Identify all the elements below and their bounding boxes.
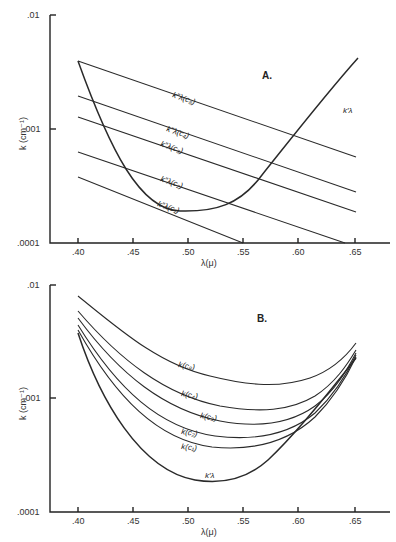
y-tick-label: .01 bbox=[27, 10, 40, 20]
x-tick-label: .40 bbox=[72, 247, 85, 257]
x-tick-label: .55 bbox=[237, 516, 250, 526]
y-tick-label: .01 bbox=[27, 280, 40, 290]
x-tick-label: .55 bbox=[237, 247, 250, 257]
x-tick-label: .65 bbox=[349, 247, 362, 257]
x-tick-label: .60 bbox=[292, 516, 305, 526]
x-tick-label: .60 bbox=[292, 247, 305, 257]
panel-a: .01 .001 .0001 k (cm⁻¹) .40 .45 .50 .55 … bbox=[17, 10, 390, 268]
curve-c2 bbox=[78, 152, 345, 243]
x-tick-label: .40 bbox=[72, 516, 85, 526]
label-c2: k(c₂) bbox=[181, 427, 199, 438]
x-tick-label: .50 bbox=[182, 247, 195, 257]
label-c4: k″λ(c₄) bbox=[165, 124, 190, 140]
panel-b: .01 .001 .0001 k (cm⁻¹) .40 .45 .50 .55 … bbox=[17, 280, 390, 537]
figure: .01 .001 .0001 k (cm⁻¹) .40 .45 .50 .55 … bbox=[0, 0, 396, 542]
curve-c4 bbox=[78, 311, 356, 410]
x-axis-label: λ(μ) bbox=[201, 258, 217, 268]
label-c2: k″λ(c₂) bbox=[159, 174, 184, 190]
curve-kprime bbox=[78, 333, 356, 482]
x-tick-label: .65 bbox=[349, 516, 362, 526]
panel-b-axes bbox=[50, 285, 390, 512]
curve-c1 bbox=[78, 330, 356, 448]
label-c8: k(c₈) bbox=[178, 360, 196, 372]
label-c4: k(c₄) bbox=[181, 389, 199, 401]
panel-b-label: B. bbox=[257, 313, 267, 324]
x-ticks bbox=[78, 238, 355, 243]
curve-c3 bbox=[78, 117, 356, 212]
curve-c8 bbox=[78, 296, 356, 385]
x-tick-label: .45 bbox=[127, 516, 140, 526]
y-tick-label: .0001 bbox=[17, 507, 40, 517]
panel-a-label: A. bbox=[262, 70, 272, 81]
x-axis-label: λ(μ) bbox=[201, 527, 217, 537]
x-ticks bbox=[78, 507, 355, 512]
label-c3: k″λ(c₃) bbox=[159, 139, 184, 155]
x-tick-label: .50 bbox=[182, 516, 195, 526]
y-axis-label: k (cm⁻¹) bbox=[18, 117, 28, 150]
curve-kprime bbox=[78, 58, 358, 211]
y-axis-label: k (cm⁻¹) bbox=[18, 387, 28, 420]
panel-a-axes bbox=[50, 15, 390, 243]
label-c3: k(c₃) bbox=[200, 411, 218, 423]
label-c1: k(c₁) bbox=[181, 442, 198, 453]
curve-c3 bbox=[78, 318, 356, 424]
label-c8: k″λ(c₈) bbox=[171, 90, 196, 106]
y-tick-label: .0001 bbox=[17, 238, 40, 248]
x-tick-label: .45 bbox=[127, 247, 140, 257]
label-kprime: k′λ bbox=[343, 106, 353, 115]
label-kprime: k′λ bbox=[205, 471, 215, 480]
curve-c1 bbox=[78, 177, 243, 243]
